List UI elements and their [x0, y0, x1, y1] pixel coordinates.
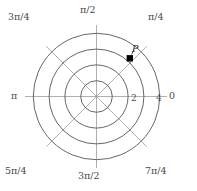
data-point-label: P [132, 44, 138, 54]
radial-label-2: 2 [131, 94, 137, 103]
theta-label-pi: π [11, 91, 17, 101]
theta-label-5pi-4: 5π/4 [5, 166, 27, 176]
theta-label-0: 0 [169, 91, 175, 101]
data-point-marker [127, 55, 133, 61]
polar-spokes [25, 25, 167, 168]
theta-label-3pi-2: 3π/2 [78, 171, 100, 181]
polar-plot-figure: 0 π/4 π/2 3π/4 π 5π/4 3π/2 7π/4 2 4 P [0, 0, 197, 191]
theta-label-3pi-4: 3π/4 [8, 12, 30, 22]
radial-label-4: 4 [156, 94, 162, 103]
theta-label-7pi-4: 7π/4 [145, 166, 167, 176]
theta-label-pi-2: π/2 [80, 5, 96, 15]
theta-label-pi-4: π/4 [148, 12, 164, 22]
polar-grid-svg [0, 0, 197, 191]
